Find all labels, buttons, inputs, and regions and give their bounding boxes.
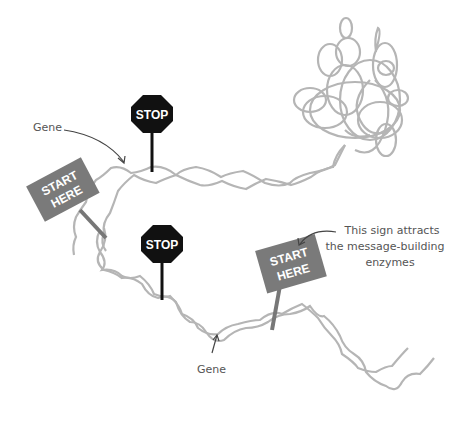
dna-gene-illustration: STOP START HERE STOP START HERE Gene Gen… bbox=[0, 0, 459, 423]
svg-text:This sign attracts: This sign attracts bbox=[344, 224, 440, 237]
svg-text:Gene: Gene bbox=[33, 121, 62, 134]
tangled-dna-ball bbox=[294, 18, 408, 156]
stop-sign-top: STOP bbox=[131, 95, 173, 172]
stop-sign-bottom: STOP bbox=[141, 225, 183, 300]
start-here-sign-left: START HERE bbox=[26, 157, 106, 238]
svg-text:Gene: Gene bbox=[197, 363, 226, 376]
gene-annotation-top: Gene bbox=[33, 121, 125, 163]
svg-text:enzymes: enzymes bbox=[365, 256, 415, 269]
svg-text:the message-building: the message-building bbox=[325, 240, 444, 253]
svg-text:STOP: STOP bbox=[136, 108, 168, 122]
svg-text:STOP: STOP bbox=[146, 238, 178, 252]
